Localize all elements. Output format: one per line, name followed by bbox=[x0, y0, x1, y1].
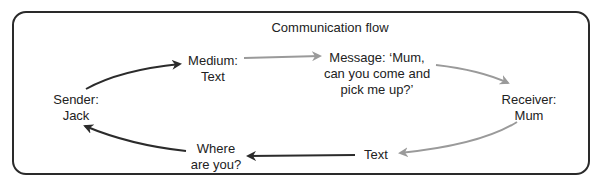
node-receiver: Receiver: Mum bbox=[502, 92, 557, 124]
arrow-message-to-receiver bbox=[436, 65, 508, 83]
node-message-line3: pick me up?’ bbox=[324, 82, 430, 98]
node-feedback-line1: Where bbox=[191, 141, 242, 157]
node-message-line2: can you come and bbox=[324, 66, 430, 82]
node-feedback-line2: are you? bbox=[191, 157, 242, 173]
node-medium: Medium: Text bbox=[188, 53, 238, 85]
arrow-medium-to-message bbox=[244, 56, 320, 58]
node-feedback: Where are you? bbox=[191, 141, 242, 173]
node-message-line1: Message: ‘Mum, bbox=[324, 50, 430, 66]
node-medium-line1: Medium: bbox=[188, 53, 238, 69]
node-message: Message: ‘Mum, can you come and pick me … bbox=[324, 50, 430, 98]
node-sender-line1: Sender: bbox=[53, 92, 99, 108]
node-receiver-line1: Receiver: bbox=[502, 92, 557, 108]
node-receiver-line2: Mum bbox=[502, 108, 557, 124]
node-sender-line2: Jack bbox=[53, 108, 99, 124]
arrow-where-to-sender bbox=[85, 126, 186, 151]
arrow-sender-to-medium bbox=[86, 64, 180, 89]
node-feedback-medium: Text bbox=[364, 147, 388, 163]
arrow-receiver-to-text bbox=[400, 122, 517, 153]
node-sender: Sender: Jack bbox=[53, 92, 99, 124]
diagram-title: Communication flow bbox=[271, 20, 388, 35]
arrow-text-to-where bbox=[248, 155, 355, 156]
node-feedback-medium-line1: Text bbox=[364, 147, 388, 163]
node-medium-line2: Text bbox=[188, 69, 238, 85]
